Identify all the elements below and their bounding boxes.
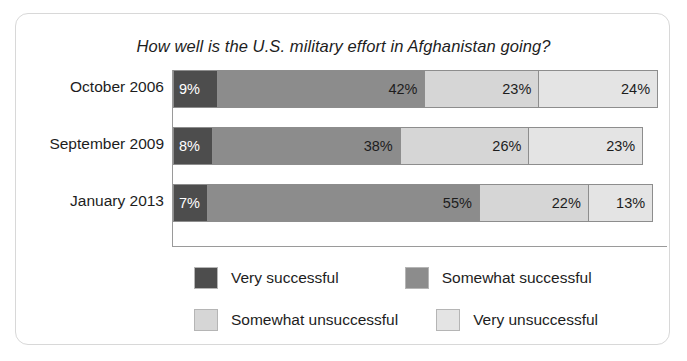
category-label: October 2006	[16, 78, 164, 96]
bar-segment: 24%	[539, 70, 658, 108]
legend-label: Very successful	[231, 269, 339, 287]
segment-value-label: 42%	[388, 81, 417, 97]
legend-swatch-icon	[194, 309, 218, 331]
bar-segment: 42%	[218, 70, 426, 108]
bar-row: October 20069%42%23%24%	[16, 66, 671, 123]
segment-value-label: 9%	[179, 81, 200, 97]
category-label: January 2013	[16, 192, 164, 210]
bar-segment: 13%	[589, 184, 653, 222]
legend-item[interactable]: Somewhat unsuccessful	[194, 309, 398, 331]
chart-screenshot: How well is the U.S. military effort in …	[0, 0, 687, 361]
legend-item[interactable]: Very successful	[194, 267, 339, 289]
chart-legend: Very successfulSomewhat successfulSomewh…	[16, 257, 671, 341]
segment-value-label: 23%	[606, 138, 635, 154]
legend-swatch-icon	[194, 267, 218, 289]
legend-label: Somewhat unsuccessful	[231, 311, 398, 329]
bar-row: September 20098%38%26%23%	[16, 123, 671, 180]
bar-segment: 23%	[425, 70, 539, 108]
segment-value-label: 26%	[492, 138, 521, 154]
legend-row: Somewhat unsuccessfulVery unsuccessful	[16, 299, 671, 341]
legend-item[interactable]: Very unsuccessful	[436, 309, 598, 331]
stacked-bar: 9%42%23%24%	[173, 70, 658, 108]
segment-value-label: 38%	[364, 138, 393, 154]
legend-swatch-icon	[405, 267, 429, 289]
plot-area: October 20069%42%23%24%September 20098%3…	[16, 66, 671, 248]
stacked-bar: 8%38%26%23%	[173, 127, 643, 165]
bar-segment: 38%	[213, 127, 401, 165]
segment-value-label: 13%	[616, 195, 645, 211]
chart-title: How well is the U.S. military effort in …	[16, 37, 671, 56]
legend-row: Very successfulSomewhat successful	[16, 257, 671, 299]
x-axis-line	[172, 246, 667, 247]
segment-value-label: 24%	[621, 81, 650, 97]
segment-value-label: 22%	[552, 195, 581, 211]
legend-label: Somewhat successful	[442, 269, 592, 287]
chart-card: How well is the U.S. military effort in …	[15, 13, 670, 345]
bar-segment: 55%	[208, 184, 480, 222]
segment-value-label: 23%	[502, 81, 531, 97]
bar-segment: 23%	[529, 127, 643, 165]
bar-row: January 20137%55%22%13%	[16, 180, 671, 237]
segment-value-label: 55%	[443, 195, 472, 211]
legend-label: Very unsuccessful	[473, 311, 598, 329]
bar-segment: 9%	[173, 70, 218, 108]
category-label: September 2009	[16, 135, 164, 153]
stacked-bar: 7%55%22%13%	[173, 184, 653, 222]
bar-segment: 22%	[480, 184, 589, 222]
legend-item[interactable]: Somewhat successful	[405, 267, 592, 289]
segment-value-label: 7%	[179, 195, 200, 211]
legend-swatch-icon	[436, 309, 460, 331]
bar-segment: 8%	[173, 127, 213, 165]
bar-rows: October 20069%42%23%24%September 20098%3…	[16, 66, 671, 237]
segment-value-label: 8%	[179, 138, 200, 154]
bar-segment: 7%	[173, 184, 208, 222]
bar-segment: 26%	[401, 127, 530, 165]
